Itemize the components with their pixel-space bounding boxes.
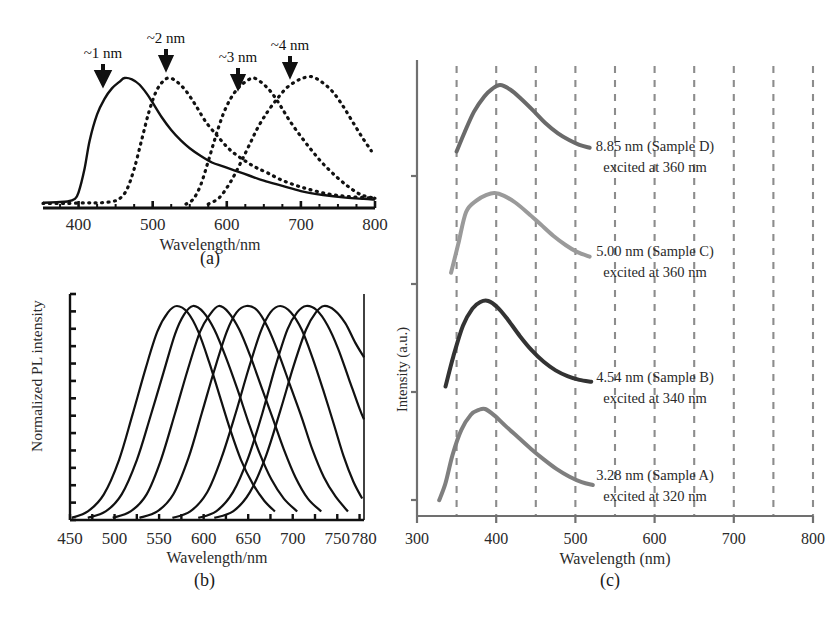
panel-c-xtick-label: 700 bbox=[722, 530, 746, 547]
panel-c-xtick-label: 400 bbox=[484, 530, 508, 547]
panel-b-curves bbox=[72, 306, 364, 518]
arrow-icon-2nm bbox=[161, 49, 171, 68]
panel-c: Intensity (a.u.) 300400500600700800 8.85… bbox=[385, 52, 835, 572]
panel-c-annotation-B: 4.54 nm (Sample B) excited at 340 nm bbox=[596, 369, 714, 406]
panel-c-curve bbox=[439, 409, 593, 501]
panel-a: ~1 nm ~2 nm ~3 nm ~4 nm 400500600700800 … bbox=[35, 18, 385, 268]
panel-c-gridlines bbox=[457, 66, 813, 516]
panel-b-caption-wrap: (b) bbox=[22, 570, 387, 591]
panel-a-caption-wrap: (a) bbox=[35, 248, 385, 269]
panel-c-xtick-label: 600 bbox=[643, 530, 667, 547]
panel-b-yaxis bbox=[70, 294, 76, 520]
panel-c-curve bbox=[446, 301, 592, 387]
panel-c-annotation-A: 3.28 nm (Sample A) excited at 320 nm bbox=[596, 467, 714, 504]
panel-b-xtick-label: 780 bbox=[351, 529, 377, 548]
panel-b-xtick-label: 450 bbox=[57, 529, 83, 548]
panel-b-label: (b) bbox=[194, 570, 215, 590]
annotation-3nm: ~3 nm bbox=[219, 49, 258, 65]
panel-c-xlabel: Wavelength (nm) bbox=[559, 550, 670, 568]
panel-a-xaxis: 400500600700800 bbox=[43, 201, 388, 234]
annotation-sample-d-excitation: excited at 360 nm bbox=[603, 159, 707, 175]
annotation-sample-c-excitation: excited at 360 nm bbox=[603, 264, 707, 280]
annotation-sample-b-size: 4.54 nm (Sample B) bbox=[596, 369, 714, 386]
panel-b-xticklabels: 450500550600650700750780 bbox=[57, 529, 377, 548]
arrow-icon-4nm bbox=[285, 56, 295, 75]
panel-c-label: (c) bbox=[600, 570, 620, 590]
annotation-sample-b-excitation: excited at 340 nm bbox=[603, 390, 707, 406]
panel-a-plot: ~1 nm ~2 nm ~3 nm ~4 nm 400500600700800 … bbox=[35, 18, 385, 268]
panel-a-xtick-label: 800 bbox=[362, 215, 388, 234]
panel-b-curve bbox=[88, 306, 297, 518]
annotation-4nm: ~4 nm bbox=[271, 37, 310, 53]
panel-c-curve bbox=[457, 85, 590, 152]
panel-c-xtick-label: 800 bbox=[801, 530, 825, 547]
panel-b: Normalized PL intensity 4505005506006507… bbox=[22, 272, 387, 572]
panel-b-xtick-label: 600 bbox=[191, 529, 217, 548]
panel-b-xtick-label: 650 bbox=[235, 529, 261, 548]
panel-a-label: (a) bbox=[200, 248, 220, 268]
annotation-1nm: ~1 nm bbox=[84, 45, 123, 61]
annotation-sample-d-size: 8.85 nm (Sample D) bbox=[596, 138, 715, 155]
panel-b-curve bbox=[198, 306, 364, 518]
annotation-sample-a-excitation: excited at 320 nm bbox=[603, 488, 707, 504]
panel-c-curves bbox=[439, 85, 593, 500]
panel-a-xtick-label: 500 bbox=[140, 215, 166, 234]
panel-b-ylabel: Normalized PL intensity bbox=[28, 300, 45, 452]
panel-c-xticklabels: 300400500600700800 bbox=[405, 530, 825, 547]
panel-a-curves bbox=[43, 77, 375, 205]
panel-b-xtick-label: 500 bbox=[102, 529, 128, 548]
panel-c-xtick-label: 300 bbox=[405, 530, 429, 547]
panel-b-xlabel: Wavelength/nm bbox=[167, 549, 268, 567]
panel-b-xtick-label: 700 bbox=[280, 529, 306, 548]
panel-c-annotation-C: 5.00 nm (Sample C) excited at 360 nm bbox=[596, 243, 714, 280]
arrow-icon-3nm bbox=[233, 68, 243, 87]
panel-a-xtick-label: 600 bbox=[214, 215, 240, 234]
panel-a-xtick-label: 700 bbox=[288, 215, 314, 234]
panel-c-xtick-label: 500 bbox=[563, 530, 587, 547]
curve-2nm bbox=[43, 78, 375, 204]
arrow-icon-1nm bbox=[97, 64, 109, 84]
annotation-2nm: ~2 nm bbox=[147, 30, 186, 46]
annotation-sample-c-size: 5.00 nm (Sample C) bbox=[596, 243, 714, 260]
panel-c-caption-wrap: (c) bbox=[385, 570, 835, 591]
curve-1nm bbox=[43, 78, 375, 203]
panel-c-plot: Intensity (a.u.) 300400500600700800 8.85… bbox=[385, 52, 835, 572]
panel-a-annotations: ~1 nm ~2 nm ~3 nm ~4 nm bbox=[84, 30, 310, 87]
panel-c-curve bbox=[451, 193, 590, 273]
panel-c-ylabel: Intensity (a.u.) bbox=[394, 327, 411, 412]
panel-b-xtick-label: 550 bbox=[146, 529, 172, 548]
panel-b-plot: Normalized PL intensity 4505005506006507… bbox=[22, 272, 387, 572]
panel-b-xtick-label: 750 bbox=[325, 529, 351, 548]
annotation-sample-a-size: 3.28 nm (Sample A) bbox=[596, 467, 714, 484]
panel-a-xtick-label: 400 bbox=[66, 215, 92, 234]
